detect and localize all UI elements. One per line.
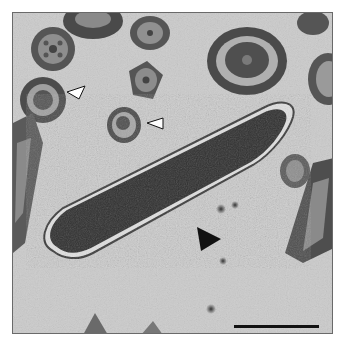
micrograph-frame — [12, 12, 333, 334]
micrograph-image — [13, 13, 333, 334]
axoneme-cross-section — [130, 16, 170, 50]
scale-bar — [234, 325, 319, 328]
axoneme-cross-section — [207, 27, 287, 95]
axoneme-cross-section — [280, 154, 310, 188]
axoneme-cross-section — [107, 107, 141, 143]
